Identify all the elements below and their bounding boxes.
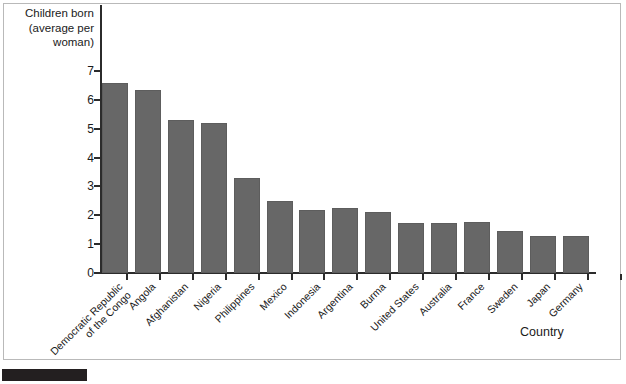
x-tick-mark [422, 274, 424, 280]
bar [497, 231, 523, 273]
y-tick-label: 6 [70, 94, 94, 106]
y-tick-label: 0 [70, 267, 94, 279]
x-tick-mark [225, 274, 227, 280]
y-tick-label: 2 [70, 209, 94, 221]
y-axis-title: Children born (average per woman) [4, 6, 94, 50]
x-tick-mark [258, 274, 260, 280]
y-tick-mark [94, 243, 100, 245]
y-tick-mark [94, 214, 100, 216]
bottom-marker-bar [2, 369, 87, 381]
x-tick-mark [356, 274, 358, 280]
y-tick-mark [94, 272, 100, 274]
bar [102, 83, 128, 273]
y-tick-label: 4 [70, 152, 94, 164]
bar [464, 222, 490, 273]
bar [201, 123, 227, 273]
x-tick-mark [389, 274, 391, 280]
y-tick-mark [94, 99, 100, 101]
x-tick-mark [554, 274, 556, 280]
bar [431, 223, 457, 274]
bar [365, 212, 391, 273]
x-axis-title: Country [520, 325, 564, 339]
y-tick-label: 7 [70, 65, 94, 77]
bar [299, 210, 325, 273]
x-tick-mark [455, 274, 457, 280]
x-tick-mark [126, 274, 128, 280]
bar [168, 120, 194, 273]
x-tick-mark [521, 274, 523, 280]
x-tick-mark [291, 274, 293, 280]
x-tick-mark [159, 274, 161, 280]
bar [135, 90, 161, 273]
x-tick-mark [587, 274, 589, 280]
y-tick-mark [94, 128, 100, 130]
bar [398, 223, 424, 274]
bar [332, 208, 358, 273]
y-tick-mark [94, 157, 100, 159]
y-tick-label: 1 [70, 238, 94, 250]
y-tick-label: 3 [70, 180, 94, 192]
y-tick-mark [94, 185, 100, 187]
bar [563, 236, 589, 273]
bar [267, 201, 293, 273]
bar [234, 178, 260, 273]
y-tick-label: 5 [70, 123, 94, 135]
bars-container [102, 5, 596, 273]
y-tick-mark [94, 70, 100, 72]
x-tick-mark [192, 274, 194, 280]
x-tick-mark [620, 274, 622, 280]
x-tick-mark [323, 274, 325, 280]
x-tick-mark [488, 274, 490, 280]
bar [530, 236, 556, 274]
